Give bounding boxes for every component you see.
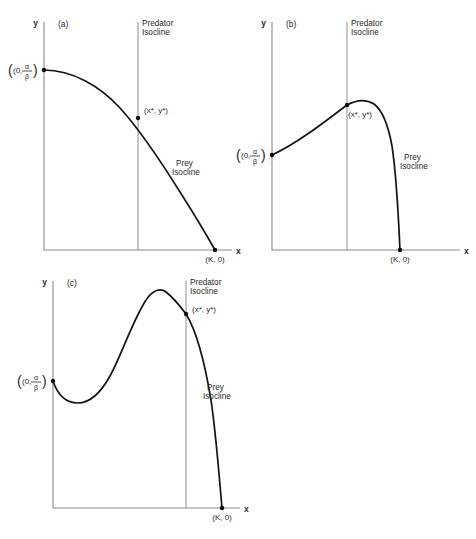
panel-a-carrying-capacity-dot xyxy=(213,248,217,252)
panel-a-intercept-lead: (0, xyxy=(13,66,22,75)
panel-c-prey-isocline-label-line2: Isocline xyxy=(203,392,231,401)
panel-a-x-axis-label: x xyxy=(236,246,241,256)
panel-c-carrying-capacity-label: (K, 0) xyxy=(212,513,232,522)
panel-b-x-axis-label: x xyxy=(464,246,469,256)
panel-a-equilibrium-label: (x*, y*) xyxy=(144,106,168,115)
panel-c-x-axis-label: x xyxy=(244,504,249,514)
panel-c-prey-isocline-curve xyxy=(53,290,222,508)
panel-b-intercept-lead: (0, xyxy=(241,151,250,160)
panel-c-intercept-numerator: α xyxy=(34,374,38,381)
panel-b-equilibrium-dot xyxy=(345,103,349,107)
panel-c-label: (c) xyxy=(67,278,77,288)
panel-b-intercept-denominator: β xyxy=(253,158,257,166)
figure-container: y (a) x Predator Isocline Prey Isocline … xyxy=(0,0,476,539)
panel-a-carrying-capacity-label: (K, 0) xyxy=(205,255,225,264)
panel-b-predator-isocline-label-line2: Isocline xyxy=(351,28,379,37)
panel-b-y-axis-label: y xyxy=(261,18,266,28)
panel-c-predator-isocline-label-line2: Isocline xyxy=(190,287,218,296)
panel-c-predator-isocline-label-line1: Predator xyxy=(190,278,222,287)
panel-b-intercept-numerator: α xyxy=(253,148,257,155)
panel-a-y-axis-label: y xyxy=(33,18,38,28)
panel-c-y-intercept-label: ( (0, α β ) xyxy=(17,373,47,392)
panel-c-intercept-lead: (0, xyxy=(22,377,31,386)
panel-a: y (a) x Predator Isocline Prey Isocline … xyxy=(8,18,241,264)
panel-b-prey-isocline-curve xyxy=(272,101,400,250)
panel-b: y (b) x Predator Isocline Prey Isocline … xyxy=(236,18,469,264)
panel-b-axes xyxy=(272,22,460,250)
panel-a-prey-isocline-label-line2: Isocline xyxy=(172,168,200,177)
panel-a-intercept-numerator: α xyxy=(25,63,29,70)
panel-c-equilibrium-label: (x*, y*) xyxy=(192,305,216,314)
panel-c-y-intercept-dot xyxy=(51,379,55,383)
panel-b-label: (b) xyxy=(286,19,297,29)
panel-b-prey-isocline-label-line2: Isocline xyxy=(400,162,428,171)
panel-c-carrying-capacity-dot xyxy=(220,506,224,510)
panel-a-equilibrium-dot xyxy=(136,116,140,120)
panel-c-intercept-denominator: β xyxy=(34,384,38,392)
panel-b-equilibrium-label: (x*, y*) xyxy=(348,110,372,119)
panel-b-y-intercept-dot xyxy=(270,153,274,157)
isocline-figure: y (a) x Predator Isocline Prey Isocline … xyxy=(0,0,476,539)
panel-a-label: (a) xyxy=(58,19,69,29)
panel-a-y-intercept-dot xyxy=(42,68,46,72)
panel-c-intercept-close-paren: ) xyxy=(42,373,47,389)
panel-c-prey-isocline-label-line1: Prey xyxy=(207,383,225,392)
panel-a-intercept-denominator: β xyxy=(25,73,29,81)
panel-c-y-axis-label: y xyxy=(42,277,47,287)
panel-b-y-intercept-label: ( (0, α β ) xyxy=(236,147,266,166)
panel-b-prey-isocline-label-line1: Prey xyxy=(404,153,422,162)
panel-a-y-intercept-label: ( (0, α β ) xyxy=(8,62,38,81)
panel-a-predator-isocline-label-line2: Isocline xyxy=(142,28,170,37)
panel-b-carrying-capacity-dot xyxy=(398,248,402,252)
panel-b-intercept-close-paren: ) xyxy=(261,147,266,163)
panel-b-predator-isocline-label-line1: Predator xyxy=(351,19,383,28)
panel-c: y (c) x Predator Isocline Prey Isocline … xyxy=(17,277,249,522)
panel-a-predator-isocline-label-line1: Predator xyxy=(142,19,174,28)
panel-a-intercept-close-paren: ) xyxy=(33,62,38,78)
panel-b-carrying-capacity-label: (K, 0) xyxy=(390,255,410,264)
panel-a-prey-isocline-label-line1: Prey xyxy=(176,159,194,168)
panel-c-equilibrium-dot xyxy=(184,312,188,316)
